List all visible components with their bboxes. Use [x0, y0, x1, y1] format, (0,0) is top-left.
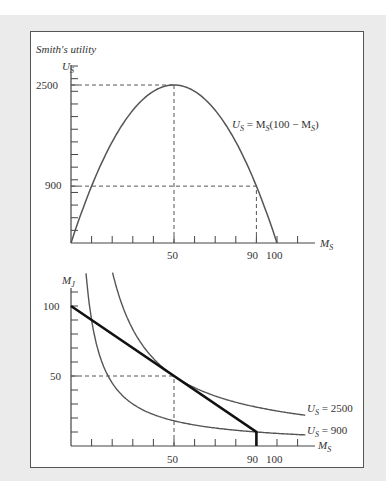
indifference-curve-2500 — [113, 273, 306, 416]
indifference-label-900: US = 900 — [307, 424, 348, 439]
bottom-chart: MJ 100 50 50 90 100 MS US = 2500 US = 90… — [43, 273, 353, 465]
top-chart-title: Smith's utility — [36, 43, 96, 55]
figure-svg: Smith's utility US 2500 900 50 90 100 MS… — [0, 0, 386, 493]
bottom-x-axis-label: MS — [317, 439, 331, 454]
top-x-axis-label: MS — [319, 237, 333, 252]
bottom-x-tick-50: 50 — [167, 453, 179, 465]
bottom-x-tick-90: 90 — [247, 453, 259, 465]
top-axes — [71, 65, 315, 243]
bottom-axes — [71, 273, 315, 446]
bottom-x-tick-100: 100 — [266, 453, 283, 465]
top-y-axis-label: US — [62, 60, 74, 75]
top-chart: Smith's utility US 2500 900 50 90 100 MS… — [36, 43, 333, 261]
top-x-tick-90: 90 — [247, 249, 259, 261]
bottom-y-tick-100: 100 — [43, 300, 60, 312]
top-y-tick-900: 900 — [45, 179, 62, 191]
top-x-tick-100: 100 — [266, 249, 283, 261]
utility-function-label: US = MS(100 − MS) — [232, 118, 319, 133]
bottom-y-axis-label: MJ — [61, 274, 75, 289]
top-y-tick-2500: 2500 — [36, 79, 59, 91]
top-x-tick-50: 50 — [167, 249, 179, 261]
indifference-label-2500: US = 2500 — [307, 402, 353, 417]
bottom-y-tick-50: 50 — [50, 370, 62, 382]
